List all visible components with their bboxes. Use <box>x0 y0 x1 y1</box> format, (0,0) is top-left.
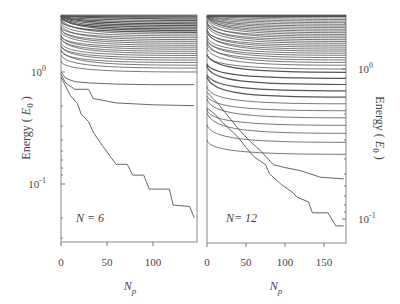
right-ylabel: Energy ( E0 ) <box>371 96 387 159</box>
energy-level-line <box>207 86 346 104</box>
energy-level-line <box>207 99 346 118</box>
left-y-ticks <box>61 38 65 238</box>
left-ytick-1e0: 100 <box>31 64 46 78</box>
right-xtick-100: 100 <box>277 256 294 268</box>
right-xlabel: Np <box>269 279 283 296</box>
energy-level-line <box>61 72 194 85</box>
left-panel: 0 50 100 100 10-1 N = 6 Np Energy ( E0 ) <box>19 15 197 296</box>
energy-level-line <box>61 77 194 218</box>
left-annotation: N = 6 <box>75 211 104 225</box>
right-xtick-0: 0 <box>204 256 210 268</box>
right-panel: 0 50 100 150 100 10-1 N= 12 Np Energy ( … <box>204 15 387 296</box>
energy-level-line <box>61 75 194 106</box>
right-x-ticks <box>207 243 324 247</box>
right-ytick-1e0: 100 <box>358 61 373 75</box>
left-panel-lines <box>61 16 197 218</box>
left-xlabel: Np <box>123 279 137 296</box>
left-xtick-100: 100 <box>145 256 162 268</box>
chart-canvas: 0 50 100 100 10-1 N = 6 Np Energy ( E0 ) <box>0 0 400 304</box>
left-xtick-0: 0 <box>58 256 64 268</box>
right-annotation: N= 12 <box>225 211 257 225</box>
right-ytick-1e-1: 10-1 <box>358 211 376 225</box>
right-panel-lines <box>207 16 346 226</box>
left-ytick-1e-1: 10-1 <box>28 176 46 190</box>
left-ylabel: Energy ( E0 ) <box>19 96 35 159</box>
energy-level-line <box>207 77 346 98</box>
left-x-ticks <box>61 242 153 246</box>
left-xtick-50: 50 <box>102 256 114 268</box>
right-xtick-150: 150 <box>316 256 333 268</box>
right-xtick-50: 50 <box>241 256 253 268</box>
